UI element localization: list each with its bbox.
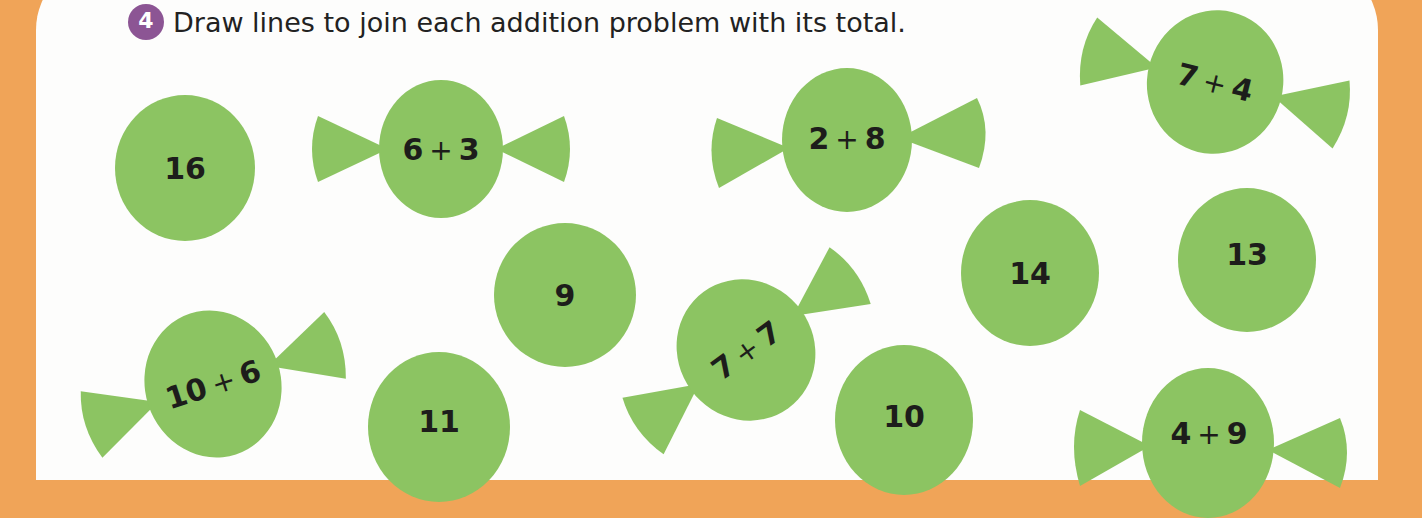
total-value: 16 <box>164 151 206 186</box>
total-circle-9[interactable]: 9 <box>494 223 636 367</box>
total-circle-10[interactable]: 10 <box>835 345 973 495</box>
total-circle-13[interactable]: 13 <box>1178 188 1316 332</box>
problem-expression: 7+7 <box>704 313 787 387</box>
problem-expression: 2+8 <box>808 121 885 156</box>
total-value: 9 <box>555 278 576 313</box>
instruction-text: Draw lines to join each addition problem… <box>173 7 906 38</box>
problem-expression: 6+3 <box>402 132 479 167</box>
exercise-number-badge: 4 <box>128 4 164 40</box>
problem-expression: 7+4 <box>1173 56 1256 109</box>
problem-expression: 10+6 <box>161 352 265 416</box>
total-circle-16[interactable]: 16 <box>115 95 255 241</box>
total-value: 14 <box>1009 256 1051 291</box>
total-value: 11 <box>418 404 460 439</box>
problem-sweet-6-plus-3[interactable]: 6+3 <box>310 80 572 218</box>
problem-sweet-2-plus-8[interactable]: 2+8 <box>707 68 987 212</box>
total-value: 10 <box>883 399 925 434</box>
problem-expression: 4+9 <box>1170 416 1247 451</box>
total-circle-11[interactable]: 11 <box>368 352 510 502</box>
problem-sweet-4-plus-9[interactable]: 4+9 <box>1068 368 1350 518</box>
exercise-number: 4 <box>138 8 153 33</box>
total-circle-14[interactable]: 14 <box>961 200 1099 346</box>
total-value: 13 <box>1226 237 1268 272</box>
